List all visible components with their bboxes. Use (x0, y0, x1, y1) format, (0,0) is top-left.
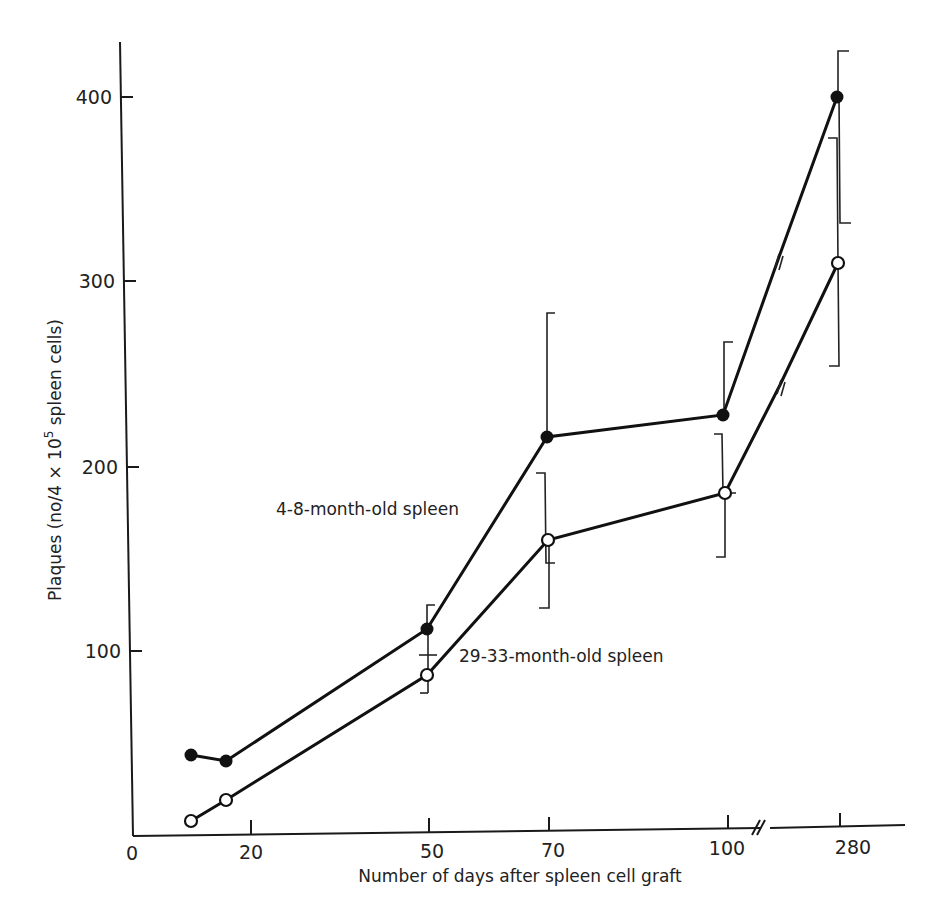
error-bars-29-33-month (419, 138, 839, 693)
y-axis-title-main: Plaques (no/4 × 10 (45, 438, 65, 601)
point-filled (541, 431, 554, 444)
y-axis-title-tail: spleen cells) (45, 319, 65, 431)
point-filled (717, 409, 730, 422)
point-open (542, 534, 554, 546)
point-open (719, 487, 731, 499)
y-axis-title-sup: 5 (42, 431, 56, 439)
point-open (421, 669, 433, 681)
point-filled (831, 91, 844, 104)
y-tick-labels: 400 300 200 100 (76, 86, 121, 662)
y-axis-title: Plaques (no/4 × 105 spleen cells) (42, 319, 65, 601)
svg-text:Plaques (no/4 × 105 spleen cel: Plaques (no/4 × 105 spleen cells) (42, 319, 65, 601)
point-open (832, 257, 844, 269)
x-tick-0: 0 (126, 842, 138, 864)
x-axis-title: Number of days after spleen cell graft (358, 866, 682, 886)
x-tick-50: 50 (420, 840, 444, 862)
x-tick-20: 20 (239, 841, 263, 863)
series-29-33-month-old (185, 257, 844, 827)
x-tick-70: 70 (541, 839, 565, 861)
point-filled (421, 623, 434, 636)
x-axis (133, 813, 905, 836)
line-chart: 400 300 200 100 0 20 50 70 100 280 Numbe… (0, 0, 938, 918)
annotation-4-8-month-old-spleen: 4-8-month-old spleen (276, 499, 459, 519)
y-tick-300: 300 (79, 270, 115, 292)
x-tick-280: 280 (835, 836, 871, 858)
y-tick-200: 200 (82, 456, 118, 478)
x-tick-labels: 0 20 50 70 100 280 (126, 836, 871, 864)
point-open (185, 815, 197, 827)
y-tick-400: 400 (76, 86, 112, 108)
point-filled (220, 755, 233, 768)
x-tick-100: 100 (709, 837, 745, 859)
y-tick-100: 100 (85, 640, 121, 662)
point-open (220, 794, 232, 806)
annotation-29-33-month-old-spleen: 29-33-month-old spleen (459, 646, 664, 666)
point-filled (185, 749, 198, 762)
error-bars-4-8-month (427, 51, 851, 629)
y-axis (120, 42, 142, 836)
